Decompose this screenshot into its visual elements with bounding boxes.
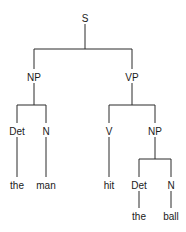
- syntax-tree-diagram: SNPVPDetNVNPthemanhitDetNtheball: [0, 0, 186, 232]
- tree-node-man: man: [36, 180, 55, 191]
- tree-node-det2: Det: [131, 180, 147, 191]
- tree-node-vp: VP: [125, 72, 139, 83]
- tree-node-hit: hit: [104, 180, 115, 191]
- tree-node-v: V: [106, 126, 113, 137]
- tree-node-s: S: [82, 13, 89, 24]
- tree-node-n2: N: [167, 180, 174, 191]
- tree-node-np2: NP: [148, 126, 162, 137]
- tree-node-the2: the: [132, 211, 146, 222]
- tree-node-labels: SNPVPDetNVNPthemanhitDetNtheball: [9, 13, 179, 222]
- tree-node-np1: NP: [27, 72, 41, 83]
- tree-node-the1: the: [10, 180, 24, 191]
- tree-node-ball: ball: [163, 211, 179, 222]
- tree-node-n1: N: [42, 126, 49, 137]
- tree-node-det1: Det: [9, 126, 25, 137]
